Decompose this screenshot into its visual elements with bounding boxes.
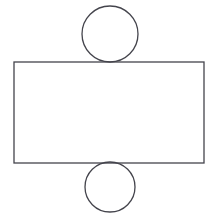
top-circle-shape [82,6,138,62]
geometric-figure-svg [0,0,217,223]
rectangle-shape [14,62,204,163]
bottom-circle-shape [85,162,135,212]
figure-canvas [0,0,217,223]
